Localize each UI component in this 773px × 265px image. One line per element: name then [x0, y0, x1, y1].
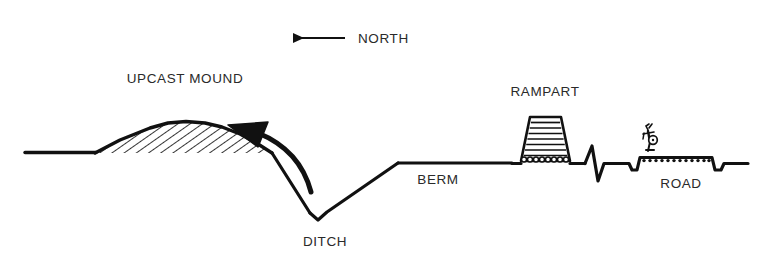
berm-label: BERM [417, 172, 458, 187]
upcast-mound-label: UPCAST MOUND [127, 71, 243, 86]
cross-section-drawing: NORTH UPCAST MOUND DITCH BERM [0, 0, 773, 265]
ground-profile: DITCH BERM [25, 153, 512, 250]
mound-outer-face [272, 153, 310, 213]
cyclist-scale-figure-icon [643, 124, 657, 151]
road-metalling [642, 159, 710, 162]
upcast-mound-feature: UPCAST MOUND [90, 71, 285, 160]
spoil-transfer-arrow [228, 122, 311, 192]
ditch-label: DITCH [303, 234, 347, 249]
road-label: ROAD [660, 176, 701, 191]
rampart-courses [524, 123, 567, 156]
spoil-arrow-shaft [258, 133, 311, 192]
ditch-profile [310, 163, 398, 220]
rampart-feature: RAMPART [511, 84, 585, 164]
section-break-symbol [585, 146, 622, 181]
rampart-label: RAMPART [511, 84, 580, 99]
earthwork-cross-section-figure: NORTH UPCAST MOUND DITCH BERM [0, 0, 773, 265]
north-indicator: NORTH [294, 31, 409, 46]
road-feature: ROAD [622, 124, 748, 191]
north-label: NORTH [358, 31, 409, 46]
break-line-icon [585, 146, 622, 181]
